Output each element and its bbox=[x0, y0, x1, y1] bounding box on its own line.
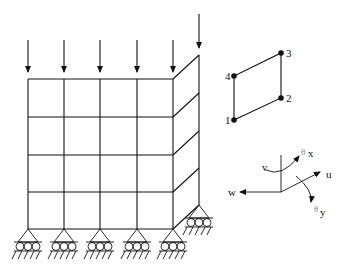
roller-support-icon bbox=[84, 229, 114, 259]
quad-element: 1 2 3 4 bbox=[225, 47, 292, 126]
node-4-label: 4 bbox=[225, 70, 231, 82]
theta-x-rotation-icon bbox=[266, 156, 299, 172]
theta-y-rotation-icon bbox=[296, 176, 311, 202]
node-1 bbox=[231, 117, 237, 123]
fem-diagram: 1 2 3 4 w u v θ x θ y bbox=[0, 0, 345, 275]
node-1-label: 1 bbox=[225, 114, 231, 126]
v-label: v bbox=[262, 161, 268, 173]
roller-support-icon bbox=[183, 205, 213, 235]
u-axis-arrow-icon bbox=[281, 172, 320, 192]
theta-y-symbol: θ bbox=[314, 204, 318, 214]
roller-support-icon bbox=[157, 229, 187, 259]
roller-support-icon bbox=[12, 229, 42, 259]
w-label: w bbox=[228, 186, 236, 198]
dof-axes: w u v θ x θ y bbox=[228, 147, 332, 218]
roller-support-icon bbox=[121, 229, 151, 259]
node-2 bbox=[278, 95, 284, 101]
side-face-mesh bbox=[173, 55, 199, 229]
theta-y-sub: y bbox=[320, 206, 326, 218]
theta-x-symbol: θ bbox=[301, 147, 305, 157]
node-2-label: 2 bbox=[286, 92, 292, 104]
roller-support-icon bbox=[48, 229, 78, 259]
load-arrows bbox=[28, 14, 199, 72]
front-face-mesh bbox=[28, 79, 173, 229]
node-4 bbox=[231, 73, 237, 79]
node-3-label: 3 bbox=[286, 47, 292, 59]
theta-x-sub: x bbox=[308, 147, 314, 159]
roller-supports bbox=[12, 205, 213, 259]
node-3 bbox=[278, 50, 284, 56]
u-label: u bbox=[326, 168, 332, 180]
